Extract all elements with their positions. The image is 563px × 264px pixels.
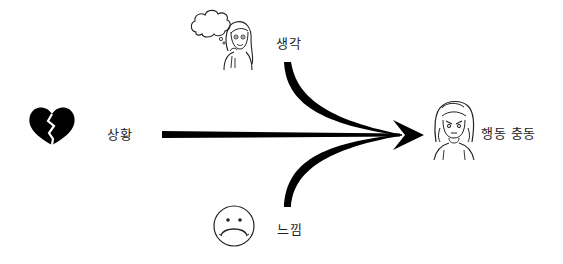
feeling-label: 느낌 — [277, 222, 302, 237]
sad-face-icon — [212, 204, 256, 248]
situation-label: 상황 — [107, 127, 132, 142]
thinking-woman-icon — [188, 6, 258, 72]
broken-heart-icon — [28, 106, 76, 146]
situation-arrow-shaft — [162, 131, 400, 138]
action-urge-label: 행동 충동 — [481, 126, 536, 141]
diagram-canvas: 상황 생각 느낌 행동 충동 — [0, 0, 563, 264]
thought-label: 생각 — [276, 36, 301, 51]
feeling-arrow-curve — [284, 135, 402, 208]
thought-arrow-curve — [284, 62, 402, 136]
upset-woman-icon — [430, 98, 478, 162]
